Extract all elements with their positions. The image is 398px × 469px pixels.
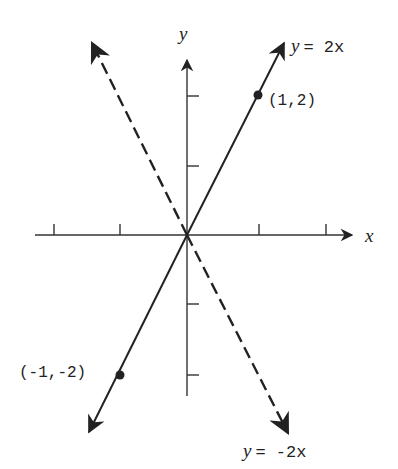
line-y-equals-2x-lower	[89, 235, 187, 432]
label-rhs: = -2x	[255, 443, 306, 462]
label-y-equals-neg-2x: y = -2x	[243, 441, 306, 461]
line-y-equals-2x	[187, 43, 284, 235]
y-axis-label: y	[179, 24, 187, 43]
point-label-neg1-neg2: (-1,-2)	[19, 365, 86, 381]
graph-canvas	[0, 0, 398, 469]
label-var: y	[243, 440, 251, 461]
label-var: y	[291, 35, 299, 56]
label-y-equals-2x: y = 2x	[291, 36, 344, 56]
point-1-2	[254, 91, 263, 100]
label-rhs: = 2x	[303, 38, 344, 57]
point-neg1-neg2	[116, 371, 125, 380]
point-label-1-2: (1,2)	[268, 93, 316, 109]
line-y-equals-neg-2x	[92, 43, 187, 235]
line-y-equals-neg-2x-lower	[187, 235, 288, 433]
x-axis-label: x	[365, 226, 373, 245]
